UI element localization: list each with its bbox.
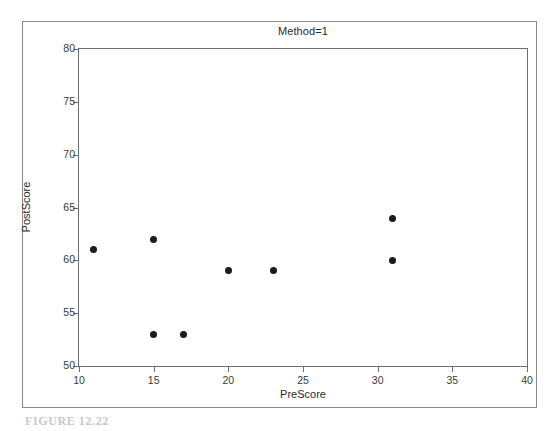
y-axis-tick-label: 50 — [63, 359, 75, 371]
x-axis-tick — [228, 366, 229, 372]
y-axis-tick-label: 70 — [63, 148, 75, 160]
x-axis-tick — [79, 366, 80, 372]
data-point — [150, 331, 157, 338]
data-point — [180, 331, 187, 338]
y-axis-tick-label: 80 — [63, 42, 75, 54]
y-axis-title: PostScore — [20, 182, 32, 233]
x-axis-tick-label: 25 — [297, 374, 309, 386]
x-axis-tick — [452, 366, 453, 372]
chart-title: Method=1 — [78, 25, 528, 37]
y-axis-tick-label: 75 — [63, 95, 75, 107]
x-axis-tick-label: 40 — [521, 374, 533, 386]
x-axis-tick-label: 30 — [372, 374, 384, 386]
data-point — [389, 257, 396, 264]
data-point — [90, 246, 97, 253]
x-axis-tick-label: 35 — [446, 374, 458, 386]
y-axis-tick-label: 60 — [63, 253, 75, 265]
scatter-plot-canvas — [79, 49, 527, 366]
y-axis-tick-label: 55 — [63, 306, 75, 318]
y-axis-tick-label: 65 — [63, 201, 75, 213]
data-point — [225, 267, 232, 274]
x-axis-tick-label: 15 — [148, 374, 160, 386]
x-axis-tick — [527, 366, 528, 372]
data-point — [150, 236, 157, 243]
x-axis-tick-label: 10 — [73, 374, 85, 386]
plot-area: 5055606570758010152025303540 — [78, 48, 528, 367]
data-point — [270, 267, 277, 274]
x-axis-tick-label: 20 — [222, 374, 234, 386]
x-axis-tick — [378, 366, 379, 372]
x-axis-title: PreScore — [78, 388, 528, 400]
figure-caption: FIGURE 12.22 — [25, 414, 109, 431]
x-axis-tick — [303, 366, 304, 372]
data-point — [389, 215, 396, 222]
x-axis-tick — [154, 366, 155, 372]
